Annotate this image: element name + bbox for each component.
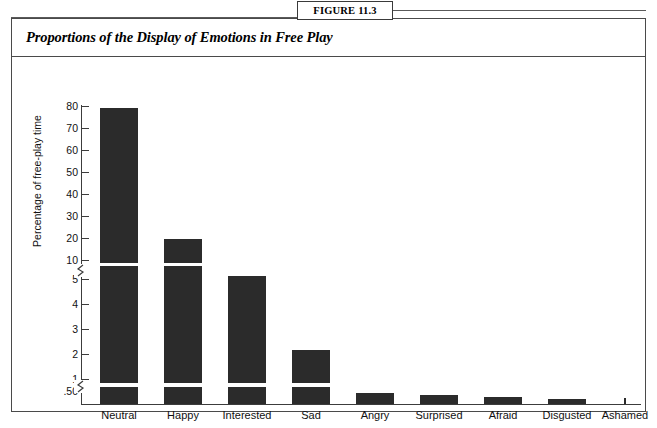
bar-happy[interactable] bbox=[164, 57, 202, 412]
bar-segment bbox=[100, 266, 138, 383]
bars-layer bbox=[12, 57, 647, 412]
x-axis-tick-labels: NeutralHappyInterestedSadAngrySurprisedA… bbox=[12, 409, 647, 428]
bar-segment bbox=[228, 387, 266, 404]
x-axis-label-ashamed: Ashamed bbox=[580, 409, 657, 421]
figure-number-box: FIGURE 11.3 bbox=[297, 1, 393, 20]
bar-segment bbox=[548, 399, 586, 404]
bar-segment bbox=[484, 397, 522, 404]
bar-segment bbox=[164, 387, 202, 404]
bar-segment bbox=[624, 398, 626, 404]
bar-segment bbox=[100, 387, 138, 404]
bar-sad[interactable] bbox=[292, 57, 330, 412]
bar-surprised[interactable] bbox=[420, 57, 458, 412]
figure-title-band: Proportions of the Display of Emotions i… bbox=[12, 19, 645, 57]
bar-segment bbox=[164, 239, 202, 263]
bar-segment bbox=[164, 266, 202, 383]
bar-segment bbox=[292, 387, 330, 404]
bar-segment bbox=[420, 395, 458, 404]
figure-rule-left bbox=[11, 17, 297, 18]
bar-segment bbox=[292, 350, 330, 383]
bar-neutral[interactable] bbox=[100, 57, 138, 412]
bar-disgusted[interactable] bbox=[548, 57, 586, 412]
figure-rule-right bbox=[393, 10, 646, 11]
figure-number-label: FIGURE 11.3 bbox=[313, 5, 376, 16]
bar-segment bbox=[228, 276, 266, 383]
bar-segment bbox=[100, 108, 138, 263]
figure-title: Proportions of the Display of Emotions i… bbox=[12, 29, 333, 46]
bar-ashamed[interactable] bbox=[624, 57, 626, 412]
bar-segment bbox=[356, 393, 394, 404]
plot-area: Percentage of free-play time 80706050403… bbox=[12, 57, 647, 412]
figure-frame: Proportions of the Display of Emotions i… bbox=[11, 18, 646, 412]
bar-interested[interactable] bbox=[228, 57, 266, 412]
bar-angry[interactable] bbox=[356, 57, 394, 412]
bar-afraid[interactable] bbox=[484, 57, 522, 412]
